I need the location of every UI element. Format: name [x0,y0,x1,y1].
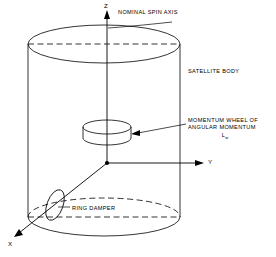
z-axis-arrowhead [104,10,110,19]
cylinder-bottom-front-arc [28,217,180,236]
angular-momentum-symbol-subscript: w [225,135,228,140]
x-axis-arrowhead [14,229,23,237]
momentum-wheel-leader-arrowhead [131,130,140,136]
x-axis-label: X [8,240,12,247]
satellite-diagram: NOMINAL SPIN AXIS SATELLITE BODY MOMENTU… [0,0,276,257]
momentum-wheel-label-block: MOMENTUM WHEEL OF ANGULAR MOMENTUM Lw [188,117,258,141]
y-axis-label: Y [208,158,212,165]
momentum-wheel-label-line2: ANGULAR MOMENTUM [188,124,256,130]
z-axis-label: Z [104,2,108,9]
leader-lines [58,22,186,207]
momentum-wheel-label-line1: MOMENTUM WHEEL OF [188,117,258,123]
y-axis-arrowhead [195,160,204,166]
satellite-body-label: SATELLITE BODY [188,68,239,75]
axes-origin-point [105,161,109,165]
angular-momentum-symbol: Lw [188,132,258,142]
momentum-wheel-leader [138,124,186,133]
nominal-spin-axis-label: NOMINAL SPIN AXIS [118,9,178,16]
ring-damper-label: RING DAMPER [72,205,115,212]
